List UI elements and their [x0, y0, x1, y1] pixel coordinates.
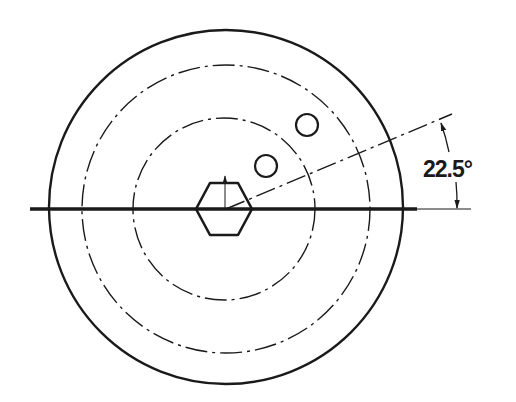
angle-dimension-label: 22.5° — [423, 156, 473, 182]
hole-2 — [296, 114, 318, 136]
outer-circle — [49, 30, 403, 384]
technical-drawing: 22.5° — [0, 0, 516, 402]
dimension-arc-upper — [441, 123, 449, 152]
hole-1 — [255, 155, 277, 177]
dimension-arc-lower — [456, 182, 457, 208]
angled-centerline — [226, 114, 452, 209]
